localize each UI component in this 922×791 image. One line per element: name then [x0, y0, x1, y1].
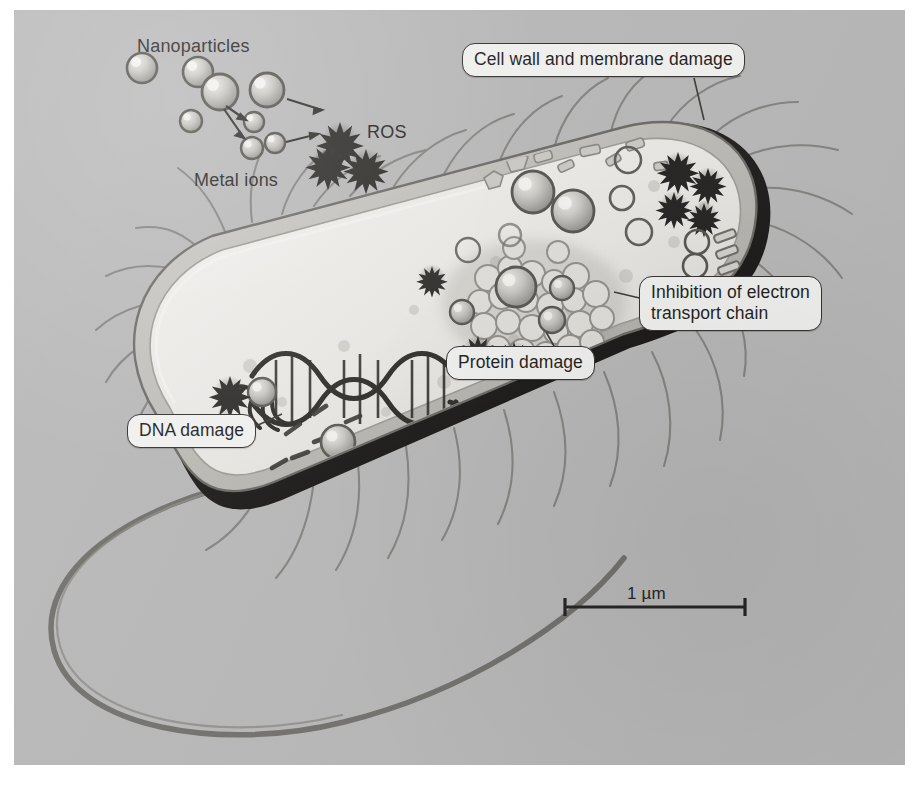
label-ros: ROS	[367, 122, 407, 143]
release-arrows	[224, 106, 246, 138]
nanoparticle-protein-small-3	[539, 307, 565, 333]
metal-ion-4	[265, 133, 285, 153]
nanoparticle-protein-large	[496, 267, 536, 307]
metal-ion-3	[241, 137, 263, 159]
bacterium-illustration	[14, 10, 905, 765]
label-nanoparticles: Nanoparticles	[137, 36, 250, 57]
callout-dna-damage: DNA damage	[127, 414, 256, 448]
etc-complex-bars	[713, 228, 740, 275]
nanoparticle-protein-small-1	[450, 300, 474, 324]
ros-star-3	[343, 149, 388, 194]
nanoparticle-wall-2	[552, 190, 594, 232]
dna-rungs-lower	[338, 474, 504, 544]
nanoparticle-dna-upper	[248, 378, 276, 406]
label-metal-ions: Metal ions	[194, 170, 278, 191]
nanoparticle-1	[127, 53, 157, 83]
nanoparticle-4	[250, 73, 284, 107]
callout-cell-wall-damage: Cell wall and membrane damage	[462, 43, 745, 77]
ros-star-dna-2	[332, 495, 369, 533]
figure-panel: Nanoparticles Metal ions ROS 1 µm Cell w…	[14, 10, 905, 765]
leader-cell-wall	[694, 78, 704, 120]
flagellum-main-inner	[57, 478, 342, 727]
metal-ion-2	[244, 112, 264, 132]
scale-bar-label: 1 µm	[627, 584, 666, 604]
callout-protein-damage: Protein damage	[446, 346, 595, 380]
nanoparticle-3	[202, 74, 238, 110]
flagellum-main	[51, 478, 624, 735]
ros-star-dna-3	[372, 495, 409, 533]
nanoparticle-protein-small-2	[550, 276, 574, 300]
callout-electron-transport: Inhibition of electron transport chain	[639, 276, 822, 331]
metal-ion-1	[180, 110, 202, 132]
nanoparticle-wall-1	[512, 171, 554, 213]
ros-arrows	[286, 99, 322, 142]
